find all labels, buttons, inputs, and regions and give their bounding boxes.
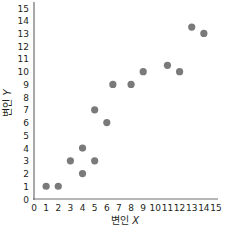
x-tick-label: 4 <box>80 203 86 213</box>
data-point <box>91 157 98 164</box>
y-tick-label: 6 <box>23 118 29 128</box>
data-point <box>67 157 74 164</box>
x-tick-label: 5 <box>92 203 98 213</box>
y-tick-label: 9 <box>23 80 29 90</box>
x-tick-label: 1 <box>43 203 49 213</box>
data-point <box>91 106 98 113</box>
y-tick-label: 4 <box>23 144 29 154</box>
data-point <box>127 81 134 88</box>
data-point <box>43 183 50 190</box>
y-tick-label: 1 <box>23 182 29 192</box>
y-tick-label: 12 <box>18 42 29 52</box>
y-axis-label: 변인 Y <box>2 88 13 116</box>
data-point <box>79 170 86 177</box>
x-tick-label: 10 <box>150 203 162 213</box>
x-tick-label: 15 <box>210 203 221 213</box>
y-tick-label: 7 <box>23 105 29 115</box>
x-tick-label: 7 <box>116 203 122 213</box>
y-tick-label: 11 <box>18 54 29 64</box>
data-point <box>79 144 86 151</box>
data-point <box>200 30 207 37</box>
y-tick-label: 8 <box>23 93 29 103</box>
x-tick-label: 3 <box>68 203 74 213</box>
data-point <box>140 68 147 75</box>
scatter-chart: 0123456789101112131415 01234567891011121… <box>0 0 227 234</box>
x-tick-label: 14 <box>198 203 210 213</box>
data-points <box>43 24 208 190</box>
data-point <box>164 62 171 69</box>
x-tick-label: 6 <box>104 203 110 213</box>
y-tick-label: 0 <box>23 195 29 205</box>
data-point <box>103 119 110 126</box>
x-axis: 0123456789101112131415 <box>31 199 222 213</box>
y-tick-label: 5 <box>23 131 29 141</box>
y-axis: 0123456789101112131415 <box>18 2 34 205</box>
x-tick-label: 11 <box>162 203 173 213</box>
data-point <box>176 68 183 75</box>
x-tick-label: 0 <box>31 203 37 213</box>
y-tick-label: 14 <box>18 16 30 26</box>
x-tick-label: 8 <box>128 203 134 213</box>
x-axis-label: 변인 X <box>111 215 140 226</box>
y-tick-label: 2 <box>23 169 29 179</box>
x-tick-label: 2 <box>55 203 61 213</box>
x-tick-label: 12 <box>174 203 185 213</box>
y-tick-label: 13 <box>18 29 29 39</box>
data-point <box>188 24 195 31</box>
x-tick-label: 9 <box>140 203 146 213</box>
y-tick-label: 15 <box>18 4 29 14</box>
data-point <box>109 81 116 88</box>
data-point <box>55 183 62 190</box>
y-tick-label: 3 <box>23 156 29 166</box>
x-tick-label: 13 <box>186 203 197 213</box>
y-tick-label: 10 <box>18 67 30 77</box>
